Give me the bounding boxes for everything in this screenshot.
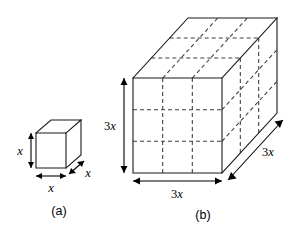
large-cube-front-face [133,78,222,173]
small-cube-width-arrow-left [36,173,42,179]
large-cube-width-label: 3x [171,187,183,201]
small-cube-width-arrow-right [60,173,66,179]
small-cube-group: x x x (a) [16,120,91,218]
large-cube-depth-label: 3x [262,145,274,159]
large-cube-depth-arrow-far [275,120,284,128]
large-cube-group: 3x 3x 3x (b) [104,18,283,222]
small-cube-height-arrow-bottom [28,162,34,168]
small-cube-height-arrow-top [28,133,34,139]
large-cube-width-arrow-left [133,178,140,185]
small-cube-width-label: x [47,181,54,195]
geometry-figure: x x x (a) [0,0,295,231]
large-cube-width-arrow-right [215,178,222,185]
large-cube-height-label: 3x [104,119,116,133]
small-cube-front-face [36,133,66,168]
large-cube-depth-arrow-near [228,172,237,180]
large-cube-height-arrow-top [121,78,128,85]
large-cube-height-arrow-bottom [121,166,128,173]
panel-a-caption: (a) [51,204,66,218]
small-cube-depth-label: x [84,166,91,180]
small-cube-height-label: x [16,144,23,158]
panel-b-caption: (b) [195,208,210,222]
figure-container: x x x (a) [0,0,295,231]
